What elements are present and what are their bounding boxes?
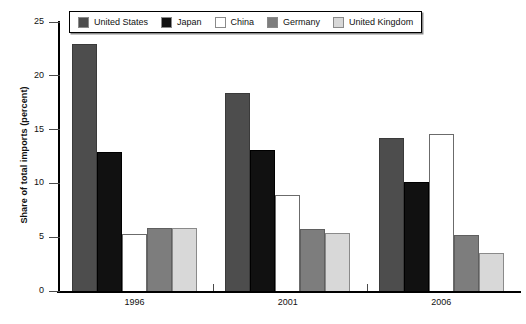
y-axis-tick-label: 10 <box>0 177 44 187</box>
bar-chart: Share of total imports (percent) 0510152… <box>0 0 526 324</box>
legend-swatch-icon <box>161 17 172 28</box>
legend-item-label: Japan <box>177 17 202 27</box>
bar <box>72 44 97 291</box>
legend-item-label: China <box>231 17 255 27</box>
bar <box>275 195 300 291</box>
x-axis-label: 2001 <box>278 297 298 307</box>
y-axis-tick <box>49 183 60 184</box>
legend-item-label: Germany <box>283 17 320 27</box>
bar <box>147 228 172 291</box>
x-axis-label: 2006 <box>431 297 451 307</box>
legend-swatch-icon <box>333 17 344 28</box>
y-axis-tick-label: 20 <box>0 70 44 80</box>
bar <box>479 253 504 291</box>
y-axis-tick <box>49 75 60 76</box>
bar <box>454 235 479 291</box>
legend-swatch-icon <box>215 17 226 28</box>
legend-item[interactable]: China <box>215 17 255 28</box>
y-axis-tick <box>49 291 60 292</box>
bar <box>250 150 275 291</box>
plot-bars <box>60 22 520 291</box>
legend-item-label: United Kingdom <box>349 17 413 27</box>
y-axis-tick-label: 0 <box>0 285 44 295</box>
y-axis-tick-label: 15 <box>0 124 44 134</box>
bar <box>379 138 404 291</box>
legend-item-label: United States <box>94 17 148 27</box>
y-axis-tick-label: 25 <box>0 16 44 26</box>
bar <box>429 134 454 291</box>
legend-swatch-icon <box>267 17 278 28</box>
x-axis-label: 1996 <box>124 297 144 307</box>
x-axis-line <box>57 291 521 293</box>
bar <box>122 234 147 291</box>
legend-item[interactable]: United States <box>78 17 148 28</box>
legend-item[interactable]: Japan <box>161 17 202 28</box>
y-axis-tick-label: 5 <box>0 231 44 241</box>
bar <box>325 233 350 291</box>
bar <box>172 228 197 291</box>
legend-swatch-icon <box>78 17 89 28</box>
legend-item[interactable]: United Kingdom <box>333 17 413 28</box>
y-axis-tick <box>49 22 60 23</box>
y-axis-tick <box>49 129 60 130</box>
y-axis-title: Share of total imports (percent) <box>19 55 29 255</box>
bar <box>97 152 122 291</box>
bar <box>300 229 325 291</box>
y-axis-tick <box>49 237 60 238</box>
bar <box>404 182 429 291</box>
bar <box>225 93 250 291</box>
legend-item[interactable]: Germany <box>267 17 320 28</box>
chart-legend: United StatesJapanChinaGermanyUnited Kin… <box>69 11 422 33</box>
